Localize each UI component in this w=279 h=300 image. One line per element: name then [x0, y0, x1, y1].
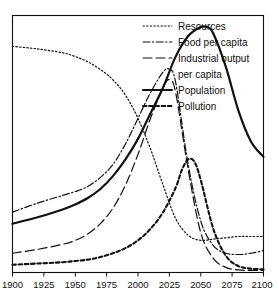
legend-label-per-capita: per capita [178, 69, 222, 80]
series-industrial-output-per-capita [13, 80, 264, 271]
x-axis-ticks [13, 273, 264, 277]
legend-label-pollution: Pollution [178, 101, 216, 112]
x-tick-label: 2075 [222, 279, 243, 290]
legend-label-industrial-output: Industrial output [178, 53, 249, 64]
x-tick-label: 2100 [251, 279, 272, 290]
series-food-per-capita [13, 69, 264, 255]
world3-line-chart: 1900 1925 1950 1975 2000 2025 2050 2075 … [0, 0, 279, 300]
x-tick-label: 2050 [190, 279, 211, 290]
legend-label-resources: Resources [178, 21, 226, 32]
x-tick-label: 1900 [2, 279, 23, 290]
legend-label-food-per-capita: Food per capita [178, 37, 248, 48]
x-tick-label: 1975 [96, 279, 117, 290]
x-tick-label: 1925 [33, 279, 54, 290]
x-tick-label: 2000 [127, 279, 148, 290]
x-tick-label: 1950 [65, 279, 86, 290]
x-axis-tick-labels: 1900 1925 1950 1975 2000 2025 2050 2075 … [2, 279, 273, 290]
series-resources [13, 46, 264, 240]
x-tick-label: 2025 [159, 279, 180, 290]
legend-label-population: Population [178, 85, 225, 96]
chart-figure: 1900 1925 1950 1975 2000 2025 2050 2075 … [0, 0, 279, 300]
